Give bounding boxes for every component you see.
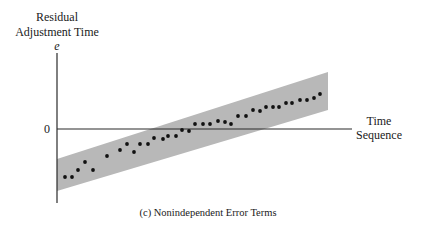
data-point (125, 142, 129, 146)
data-point (105, 154, 109, 158)
data-point (223, 120, 227, 124)
trend-band (57, 72, 328, 191)
data-point (91, 168, 95, 172)
y-axis-label-line2: Adjustment Time (15, 25, 99, 39)
data-point (146, 142, 150, 146)
data-point (298, 98, 302, 102)
y-axis-label-line1: Residual (36, 10, 79, 24)
data-point (290, 101, 294, 105)
data-point (284, 101, 288, 105)
chart-caption: (c) Nonindependent Error Terms (140, 207, 277, 219)
data-point (277, 105, 281, 109)
data-point (63, 175, 67, 179)
data-point (174, 134, 178, 138)
data-point (208, 122, 212, 126)
data-point (312, 96, 316, 100)
data-point (180, 128, 184, 132)
data-point (152, 136, 156, 140)
data-point (305, 98, 309, 102)
data-point (236, 114, 240, 118)
data-point (166, 134, 170, 138)
data-point (132, 150, 136, 154)
y-tick-zero: 0 (44, 122, 50, 136)
data-point (70, 175, 74, 179)
data-point (118, 148, 122, 152)
data-point (138, 142, 142, 146)
data-point (271, 105, 275, 109)
data-point (216, 119, 220, 123)
data-point (76, 168, 80, 172)
data-point (244, 114, 248, 118)
data-point (161, 137, 165, 141)
residual-plot: Residual Adjustment Time e 0 Time Sequen… (0, 0, 421, 227)
data-point (264, 105, 268, 109)
x-axis-label-line2: Sequence (356, 128, 402, 142)
data-point (251, 108, 255, 112)
data-point (318, 92, 322, 96)
data-point (258, 109, 262, 113)
y-axis-symbol: e (54, 39, 60, 53)
data-point (229, 122, 233, 126)
data-point (193, 122, 197, 126)
data-point (201, 122, 205, 126)
data-point (83, 160, 87, 164)
x-axis-label-line1: Time (367, 114, 392, 128)
data-point (187, 129, 191, 133)
